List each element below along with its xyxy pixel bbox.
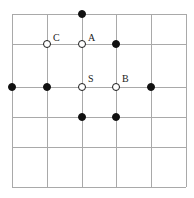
grid-line-horizontal-2	[12, 87, 186, 88]
point-filled-p10	[78, 113, 86, 121]
point-filled-p11	[112, 113, 120, 121]
point-a	[78, 40, 86, 48]
point-c	[43, 40, 51, 48]
point-filled-p9	[147, 83, 155, 91]
point-label-b: B	[122, 74, 129, 84]
grid-line-vertical-0	[12, 14, 13, 187]
grid-line-vertical-4	[151, 14, 152, 187]
grid-line-horizontal-4	[12, 147, 186, 148]
lattice-point-diagram: CASB	[0, 0, 194, 198]
point-b	[112, 83, 120, 91]
point-label-s: S	[88, 74, 94, 84]
grid-line-horizontal-3	[12, 117, 186, 118]
point-label-a: A	[88, 33, 95, 43]
grid-line-horizontal-5	[12, 187, 186, 188]
point-filled-p5	[8, 83, 16, 91]
point-filled-p6	[43, 83, 51, 91]
grid-line-vertical-5	[186, 14, 187, 187]
grid-line-horizontal-0	[12, 14, 186, 15]
grid-line-horizontal-1	[12, 44, 186, 45]
point-filled-p1	[78, 10, 86, 18]
point-label-c: C	[53, 33, 60, 43]
point-s	[78, 83, 86, 91]
point-filled-p4	[112, 40, 120, 48]
